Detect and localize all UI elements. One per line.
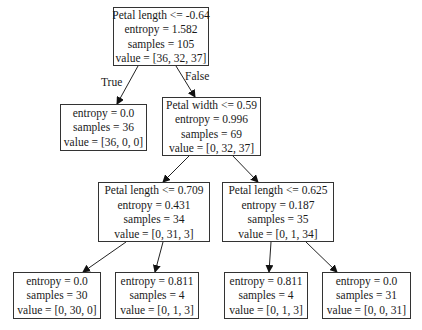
node-samples: samples = 36 [73,120,134,135]
node-entropy: entropy = 1.582 [124,22,197,37]
node-samples: samples = 34 [124,212,185,227]
node-value: value = [0, 30, 0] [17,303,96,318]
node-value: value = [0, 1, 3] [120,303,194,318]
node-entropy: entropy = 0.811 [121,274,194,289]
node-samples: samples = 35 [248,212,309,227]
node-value: value = [0, 1, 34] [238,227,317,242]
node-value: value = [36, 32, 37] [116,51,207,66]
node-value: value = [0, 1, 3] [229,303,303,318]
node-split-rule: Petal length <= 0.625 [228,183,327,198]
edge-n3-n6 [155,242,163,272]
tree-node-root: Petal length <= -0.64 entropy = 1.582 sa… [113,7,209,66]
node-entropy: entropy = 0.996 [175,112,248,127]
node-entropy: entropy = 0.811 [230,274,303,289]
node-samples: samples = 30 [27,288,88,303]
node-entropy: entropy = 0.431 [117,198,190,213]
tree-node-leaf-2: entropy = 0.811 samples = 4 value = [0, … [115,272,199,319]
edge-label-true: True [101,76,122,88]
edge-label-false: False [185,70,209,82]
node-samples: samples = 69 [181,127,242,142]
node-value: value = [0, 31, 3] [114,227,193,242]
edge-n3-n5 [83,242,126,272]
tree-node-leaf-1: entropy = 0.0 samples = 30 value = [0, 3… [13,272,101,319]
node-entropy: entropy = 0.187 [241,198,314,213]
edge-n2-n4 [232,155,258,182]
tree-node-petal-length-right: Petal length <= 0.625 entropy = 0.187 sa… [222,182,334,242]
tree-node-leaf-4: entropy = 0.0 samples = 31 value = [0, 0… [322,272,411,319]
node-split-rule: Petal length <= -0.64 [112,8,209,23]
node-entropy: entropy = 0.0 [336,274,398,289]
node-samples: samples = 4 [238,288,293,303]
edge-n2-n3 [163,155,190,182]
tree-node-leaf-setosa: entropy = 0.0 samples = 36 value = [36, … [60,104,147,151]
node-split-rule: Petal width <= 0.59 [166,98,257,113]
edge-n4-n8 [306,242,337,272]
tree-node-petal-length-left: Petal length <= 0.709 entropy = 0.431 sa… [98,182,210,242]
tree-node-petal-width: Petal width <= 0.59 entropy = 0.996 samp… [162,97,261,156]
tree-node-leaf-3: entropy = 0.811 samples = 4 value = [0, … [224,272,308,319]
edge-n4-n7 [269,242,271,272]
node-value: value = [0, 0, 31] [327,303,406,318]
node-samples: samples = 105 [128,37,195,52]
node-samples: samples = 4 [129,288,184,303]
node-value: value = [0, 32, 37] [169,141,254,156]
node-entropy: entropy = 0.0 [26,274,88,289]
node-entropy: entropy = 0.0 [73,106,135,121]
node-value: value = [36, 0, 0] [64,135,143,150]
node-samples: samples = 31 [336,288,397,303]
node-split-rule: Petal length <= 0.709 [104,183,203,198]
